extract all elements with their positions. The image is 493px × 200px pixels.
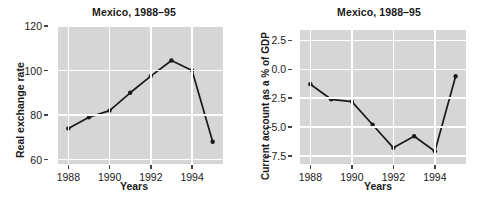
y-axis-ticks-right: 2.50.0−2.5−5.0−7.5	[244, 0, 296, 200]
x-tick-mark	[109, 165, 111, 169]
y-tick-label: −7.5	[265, 150, 286, 162]
y-tick-mark	[288, 40, 292, 42]
y-tick-mark	[44, 159, 48, 161]
data-point-marker	[453, 74, 457, 78]
y-tick-mark	[44, 70, 48, 72]
y-tick-mark	[288, 155, 292, 157]
x-tick-mark	[310, 165, 312, 169]
gridline-horizontal	[58, 70, 223, 72]
gridline-horizontal	[300, 40, 466, 42]
x-tick-mark	[68, 165, 70, 169]
gridline-horizontal	[58, 25, 223, 27]
gridline-horizontal	[300, 69, 466, 71]
gridline-vertical	[310, 30, 312, 164]
y-tick-label: 100	[24, 65, 42, 77]
x-tick-mark	[351, 165, 353, 169]
gridline-horizontal	[300, 155, 466, 157]
gridline-horizontal	[58, 159, 223, 161]
gridline-horizontal	[300, 97, 466, 99]
x-tick-mark	[150, 165, 152, 169]
gridline-vertical	[68, 26, 70, 164]
y-tick-label: 0.0	[271, 63, 286, 75]
gridline-vertical	[191, 26, 193, 164]
x-axis-label-left: Years	[0, 180, 246, 192]
data-point-marker	[169, 58, 173, 62]
x-tick-mark	[191, 165, 193, 169]
y-tick-mark	[288, 69, 292, 71]
y-tick-label: −2.5	[265, 92, 286, 104]
gridline-horizontal	[300, 126, 466, 128]
y-tick-label: −5.0	[265, 121, 286, 133]
gridline-vertical	[351, 30, 353, 164]
panel-current-account: Mexico, 1988–95 Current account as a % o…	[246, 0, 492, 200]
y-tick-mark	[288, 126, 292, 128]
data-point-marker	[210, 140, 214, 144]
series-line-left	[58, 26, 223, 164]
x-tick-mark	[434, 165, 436, 169]
y-tick-mark	[288, 97, 292, 99]
y-tick-mark	[44, 25, 48, 27]
gridline-horizontal	[58, 114, 223, 116]
y-tick-mark	[44, 114, 48, 116]
y-tick-label: 80	[30, 109, 42, 121]
two-panel-line-chart-figure: Mexico, 1988–95 Real exchange rate 60801…	[0, 0, 493, 200]
plot-area-right	[300, 30, 466, 164]
gridline-vertical	[393, 30, 395, 164]
data-point-marker	[128, 91, 132, 95]
panel-real-exchange-rate: Mexico, 1988–95 Real exchange rate 60801…	[0, 0, 246, 200]
y-tick-label: 60	[30, 154, 42, 166]
y-axis-ticks-left: 6080100120	[0, 0, 52, 200]
y-tick-label: 2.5	[271, 34, 286, 46]
gridline-vertical	[150, 26, 152, 164]
y-tick-label: 120	[24, 20, 42, 32]
gridline-vertical	[434, 30, 436, 164]
data-point-marker	[412, 134, 416, 138]
x-tick-mark	[393, 165, 395, 169]
plot-area-left	[58, 26, 223, 164]
x-axis-label-right: Years	[246, 180, 492, 192]
gridline-vertical	[109, 26, 111, 164]
